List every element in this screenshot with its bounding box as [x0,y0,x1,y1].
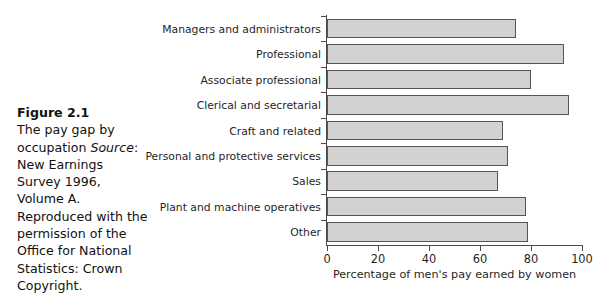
x-axis-tick [378,246,379,251]
x-axis-tick-label: 100 [571,252,593,266]
category-label: Personal and protective services [145,149,321,162]
category-label: Clerical and secretarial [197,99,321,112]
bar-row [327,169,582,194]
bar-row [327,118,582,143]
bar-chart: Managers and administratorsProfessionalA… [0,0,605,302]
bar-row [327,92,582,117]
bar-row [327,41,582,66]
bar-row [327,194,582,219]
y-axis-tick [321,41,327,42]
y-axis-tick [321,118,327,119]
category-label: Sales [292,175,321,188]
bar [327,44,564,64]
category-label: Professional [256,48,321,61]
x-axis-tick-label: 80 [524,252,539,266]
x-axis-tick [327,246,328,251]
figure-container: Figure 2.1The pay gap by occupation Sour… [0,0,605,302]
x-axis-tick-label: 0 [323,252,330,266]
category-label: Associate professional [200,73,321,86]
x-axis-tick [429,246,430,251]
bar [327,197,526,217]
bar-row [327,220,582,245]
x-axis-tick [582,246,583,251]
x-axis-tick [531,246,532,251]
category-label: Managers and administrators [162,22,321,35]
x-axis-title: Percentage of men's pay earned by women [327,268,582,281]
y-axis-tick [321,143,327,144]
bar [327,95,569,115]
y-axis-tick [321,169,327,170]
category-axis-labels: Managers and administratorsProfessionalA… [130,16,321,245]
bar [327,19,516,39]
x-axis-tick [480,246,481,251]
y-axis-tick [321,220,327,221]
category-label: Craft and related [229,124,321,137]
category-label: Other [290,226,321,239]
bar-row [327,16,582,41]
x-axis-tick-label: 40 [422,252,437,266]
bar-row [327,143,582,168]
bar-row [327,67,582,92]
y-axis-tick [321,194,327,195]
x-axis-line [326,245,583,246]
bar [327,171,498,191]
plot-area [327,16,582,245]
x-axis-tick-label: 60 [473,252,488,266]
bar [327,70,531,90]
y-axis-tick [321,67,327,68]
x-axis-tick-label: 20 [371,252,386,266]
category-label: Plant and machine operatives [160,200,321,213]
bar [327,121,503,141]
y-axis-tick [321,92,327,93]
bar [327,222,528,242]
bar [327,146,508,166]
y-axis-tick [321,16,327,17]
